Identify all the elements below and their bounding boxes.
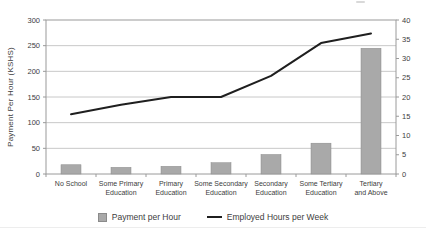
right-axis-tick-label: 5 bbox=[402, 150, 406, 159]
legend: Payment per Hour Employed Hours per Week bbox=[0, 211, 426, 223]
right-axis-tick-label: 20 bbox=[402, 93, 410, 102]
legend-item-payment: Payment per Hour bbox=[98, 212, 181, 222]
left-axis-tick-label: 0 bbox=[36, 170, 40, 179]
right-axis-tick-label: 25 bbox=[402, 73, 410, 82]
category-label: Education bbox=[155, 189, 186, 196]
bar-swatch-icon bbox=[98, 213, 107, 222]
left-axis-tick-label: 200 bbox=[27, 67, 40, 76]
category-label: Some Primary bbox=[99, 180, 144, 188]
category-label: Education bbox=[205, 189, 236, 196]
left-axis-tick-label: 50 bbox=[32, 144, 40, 153]
left-axis-tick-label: 150 bbox=[27, 93, 40, 102]
category-label: Education bbox=[105, 189, 136, 196]
payment-bar bbox=[111, 167, 131, 174]
right-axis-tick-label: 15 bbox=[402, 112, 410, 121]
line-swatch-icon bbox=[207, 216, 222, 218]
right-axis-tick-label: 10 bbox=[402, 131, 410, 140]
category-label: Secondary bbox=[254, 180, 288, 188]
payment-bar bbox=[361, 48, 381, 174]
right-axis-tick-label: 35 bbox=[402, 35, 410, 44]
payment-bar bbox=[211, 163, 231, 174]
category-label: Some Tertiary bbox=[299, 180, 343, 188]
right-axis-tick-label: 30 bbox=[402, 54, 410, 63]
legend-label-payment: Payment per Hour bbox=[112, 212, 181, 222]
category-label: Primary bbox=[159, 180, 184, 188]
payment-bar bbox=[261, 154, 281, 174]
legend-label-hours: Employed Hours per Week bbox=[227, 212, 328, 222]
category-label: and Above bbox=[354, 189, 387, 196]
payment-bar bbox=[61, 165, 81, 174]
left-axis-tick-label: 250 bbox=[27, 41, 40, 50]
category-label: Some Secondary bbox=[194, 180, 248, 188]
page-rule-line bbox=[0, 227, 426, 228]
plot-svg: 0501001502002503000510152025303540No Sch… bbox=[0, 0, 426, 234]
payment-bar bbox=[161, 166, 181, 174]
category-label: Education bbox=[255, 189, 286, 196]
left-axis-tick-label: 300 bbox=[27, 16, 40, 25]
left-axis-tick-label: 100 bbox=[27, 118, 40, 127]
category-label: No School bbox=[55, 180, 88, 187]
chart-figure: Payment Per Hour (KSHS) 0501001502002503… bbox=[0, 0, 426, 234]
right-axis-tick-label: 0 bbox=[402, 170, 406, 179]
right-axis-tick-label: 40 bbox=[402, 16, 410, 25]
payment-bar bbox=[311, 143, 331, 174]
legend-item-hours: Employed Hours per Week bbox=[207, 212, 328, 222]
category-label: Education bbox=[305, 189, 336, 196]
category-label: Tertiary bbox=[360, 180, 383, 188]
